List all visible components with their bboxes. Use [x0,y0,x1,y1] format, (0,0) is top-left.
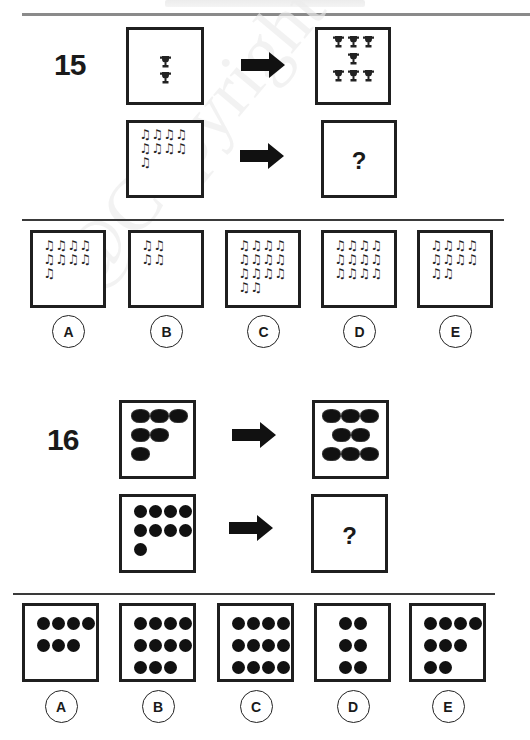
option-a-box[interactable] [22,603,99,682]
icon-row [36,617,96,630]
dot-icon [179,505,192,518]
music-note-icon: ♫ [79,239,91,253]
option-b-label[interactable]: B [150,315,183,348]
problem-left-box [119,494,196,573]
music-note-group: ♫♫♫♫♫♫♫♫♫♫♫♫ [334,239,382,281]
option-a-label[interactable]: A [52,315,85,348]
option-b-box[interactable] [119,603,196,682]
icon-row [133,639,193,652]
music-note-icon: ♫ [454,239,466,253]
fuzzy-blob-icon [352,429,369,441]
icon-row [133,543,193,556]
answer-placeholder-box: ? [321,120,397,198]
dot-icon [179,617,192,630]
icon-row: ♫♫♫♫ [334,253,382,267]
option-e-box[interactable]: ♫♫♫♫♫♫♫♫♫♫ [417,230,493,308]
music-note-icon: ♫ [151,128,163,142]
question-number: 16 [47,423,78,457]
icon-row: ♫♫♫♫ [139,128,187,142]
music-note-icon: ♫ [346,267,358,281]
icon-row [331,69,376,83]
dot-icon [164,617,177,630]
music-note-icon: ♫ [274,267,286,281]
music-note-icon: ♫ [358,239,370,253]
dot-icon [262,639,275,652]
music-note-group: ♫♫♫♫♫♫♫♫♫♫ [430,239,478,281]
example-right-box [312,400,389,479]
option-c-label[interactable]: C [247,315,280,348]
arrow-right-icon [240,143,284,169]
icon-row [338,639,368,652]
music-note-icon: ♫ [139,128,151,142]
icon-row [131,448,188,460]
dot-icon [149,524,162,537]
icon-row: ♫ [43,267,91,281]
trophy-icon [347,52,360,66]
dot-icon [134,543,147,556]
dot-icon [277,661,290,674]
blob-group [131,410,188,467]
icon-row [133,505,193,518]
option-d-label[interactable]: D [343,315,376,348]
music-note-icon: ♫ [334,239,346,253]
music-note-group: ♫♫♫♫♫♫♫♫♫♫♫♫♫♫ [238,239,286,295]
option-c-box[interactable] [217,603,294,682]
dot-icon [339,617,352,630]
problem-left-box: ♫♫♫♫♫♫♫♫♫ [126,120,204,198]
music-note-icon: ♫ [139,156,151,170]
option-e-label[interactable]: E [439,315,472,348]
icon-row: ♫♫ [141,253,165,267]
music-note-icon: ♫ [454,253,466,267]
option-e-box[interactable] [409,603,486,682]
dot-group [133,505,193,562]
music-note-icon: ♫ [274,253,286,267]
dot-icon [134,661,147,674]
music-note-icon: ♫ [175,142,187,156]
fuzzy-blob-icon [333,429,350,441]
example-left-box [119,400,196,479]
icon-row: ♫♫♫♫ [238,253,286,267]
option-c-box[interactable]: ♫♫♫♫♫♫♫♫♫♫♫♫♫♫ [225,230,301,308]
arrow-right-icon [241,52,285,78]
dot-icon [149,617,162,630]
question-number: 15 [54,48,85,82]
music-note-icon: ♫ [43,267,55,281]
music-note-icon: ♫ [238,239,250,253]
dot-icon [67,617,80,630]
icon-row [338,617,368,630]
dot-icon [354,661,367,674]
dot-icon [277,617,290,630]
dot-icon [262,617,275,630]
option-b-label[interactable]: B [142,690,175,723]
dot-icon [232,639,245,652]
trophy-icon [332,69,345,83]
icon-row [36,639,96,652]
music-note-icon: ♫ [175,128,187,142]
option-e-label[interactable]: E [432,690,465,723]
music-note-icon: ♫ [139,142,151,156]
option-a-box[interactable]: ♫♫♫♫♫♫♫♫♫ [30,230,106,308]
music-note-icon: ♫ [163,142,175,156]
question-mark: ? [314,522,385,550]
option-d-label[interactable]: D [337,690,370,723]
icon-row [133,617,193,630]
icon-row [231,661,291,674]
music-note-icon: ♫ [79,253,91,267]
option-c-label[interactable]: C [240,690,273,723]
option-b-box[interactable]: ♫♫♫♫ [128,230,204,308]
option-d-box[interactable]: ♫♫♫♫♫♫♫♫♫♫♫♫ [321,230,397,308]
music-note-icon: ♫ [262,267,274,281]
icon-row [158,55,173,69]
icon-row [133,661,193,674]
dot-icon [262,661,275,674]
option-a-label[interactable]: A [45,690,78,723]
music-note-icon: ♫ [250,253,262,267]
dot-icon [232,617,245,630]
icon-row: ♫♫♫♫ [43,253,91,267]
option-d-box[interactable] [314,603,391,682]
music-note-icon: ♫ [153,253,165,267]
dot-icon [277,639,290,652]
dot-icon [134,639,147,652]
dot-icon [37,639,50,652]
dot-icon [247,617,260,630]
